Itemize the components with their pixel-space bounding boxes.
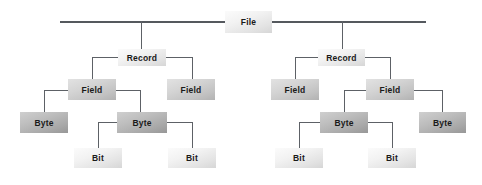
edge-record-left-to-field-l2-h — [165, 57, 193, 58]
node-record-right-label: Record — [326, 53, 357, 63]
edge-record-right-to-field-r1-v — [295, 57, 296, 79]
node-field-left-1-label: Field — [82, 85, 103, 95]
node-byte-left-1-label: Byte — [34, 118, 53, 128]
edge-field-r2-to-byte-r1-v — [344, 90, 345, 112]
node-field-right-2: Field — [366, 79, 414, 100]
edge-byte-l2-to-bit-l2-h — [167, 122, 193, 123]
edge-byte-r1-to-bit-r2-h — [367, 122, 393, 123]
node-field-left-1: Field — [68, 79, 116, 100]
node-field-right-2-label: Field — [380, 85, 401, 95]
edge-record-left-to-field-l1-v — [92, 57, 93, 79]
node-file: File — [225, 11, 272, 33]
node-field-right-1-label: Field — [285, 85, 306, 95]
node-field-left-2-label: Field — [181, 85, 202, 95]
node-bit-left-2-label: Bit — [186, 153, 198, 163]
edge-file-to-record-right — [342, 21, 343, 49]
edge-file-to-record-left — [141, 21, 142, 49]
node-field-right-1: Field — [271, 79, 319, 100]
node-bit-right-2: Bit — [368, 148, 416, 168]
node-byte-right-1: Byte — [320, 112, 368, 133]
node-bit-left-1: Bit — [74, 148, 122, 168]
node-byte-right-1-label: Byte — [334, 118, 353, 128]
node-byte-right-2-label: Byte — [433, 118, 452, 128]
node-bit-left-1-label: Bit — [92, 153, 104, 163]
node-record-left-label: Record — [127, 53, 158, 63]
edge-field-l1-to-byte-l2-h — [115, 90, 141, 91]
edge-record-left-to-field-l2-v — [192, 57, 193, 79]
edge-byte-r1-to-bit-r1-h — [299, 122, 321, 123]
edge-field-l1-to-byte-l2-v — [140, 90, 141, 112]
node-bit-right-2-label: Bit — [386, 153, 398, 163]
edge-file-spine-left — [60, 21, 226, 23]
edge-field-l1-to-byte-l1-h — [44, 90, 69, 91]
edge-record-right-to-field-r2-h — [364, 57, 391, 58]
node-record-right: Record — [318, 49, 365, 66]
node-byte-right-2: Byte — [419, 112, 466, 133]
node-field-left-2: Field — [167, 79, 215, 100]
edge-byte-r1-to-bit-r1-v — [299, 122, 300, 148]
node-byte-left-2: Byte — [117, 112, 167, 133]
node-byte-left-2-label: Byte — [132, 118, 151, 128]
edge-record-left-to-field-l1-h — [92, 57, 119, 58]
edge-field-r2-to-byte-r2-v — [442, 90, 443, 112]
file-hierarchy-diagram: File Record Record Field Field Field Fie… — [0, 0, 482, 185]
edge-field-r2-to-byte-r2-h — [412, 90, 443, 91]
edge-field-l1-to-byte-l1-v — [44, 90, 45, 112]
node-record-left: Record — [118, 49, 166, 66]
node-byte-left-1: Byte — [20, 112, 68, 133]
node-bit-right-1: Bit — [275, 148, 323, 168]
node-file-label: File — [241, 17, 256, 27]
edge-byte-r1-to-bit-r2-v — [392, 122, 393, 148]
edge-file-spine-right — [271, 21, 426, 23]
node-bit-left-2: Bit — [168, 148, 216, 168]
edge-byte-l2-to-bit-l2-v — [192, 122, 193, 148]
edge-record-right-to-field-r1-h — [295, 57, 319, 58]
node-bit-right-1-label: Bit — [293, 153, 305, 163]
edge-byte-l2-to-bit-l1-v — [98, 122, 99, 148]
edge-record-right-to-field-r2-v — [390, 57, 391, 79]
